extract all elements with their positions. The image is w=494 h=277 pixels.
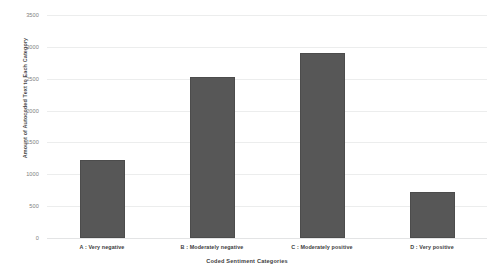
x-axis-tick-label: C : Moderately positive (291, 244, 352, 250)
bars-layer (47, 15, 487, 238)
bar-slot (190, 15, 235, 238)
y-axis-tick-label: 500 (0, 203, 39, 209)
plot-area (47, 15, 487, 238)
gridline (47, 238, 487, 239)
bar[interactable] (190, 77, 235, 238)
y-axis-tick-label: 3500 (0, 12, 39, 18)
y-axis-title: Amount of Autocoded Text to Each Categor… (22, 18, 28, 178)
x-axis-tick-label: B : Moderately negative (181, 244, 244, 250)
y-axis-tick-label: 3000 (0, 44, 39, 50)
x-axis-title: Coded Sentiment Categories (0, 258, 494, 264)
y-axis-tick-label: 1000 (0, 171, 39, 177)
bar-slot (300, 15, 345, 238)
bar[interactable] (410, 192, 455, 238)
y-axis-tick-label: 1500 (0, 139, 39, 145)
bar-chart: Amount of Autocoded Text to Each Categor… (0, 0, 494, 277)
y-axis-tick-label: 2000 (0, 108, 39, 114)
y-axis-tick-label: 2500 (0, 76, 39, 82)
bar[interactable] (80, 160, 125, 238)
x-axis-tick-label: D : Very positive (410, 244, 454, 250)
y-axis-tick-label: 0 (0, 235, 39, 241)
x-axis-tick-label: A : Very negative (80, 244, 125, 250)
bar[interactable] (300, 53, 345, 238)
bar-slot (80, 15, 125, 238)
bar-slot (410, 15, 455, 238)
